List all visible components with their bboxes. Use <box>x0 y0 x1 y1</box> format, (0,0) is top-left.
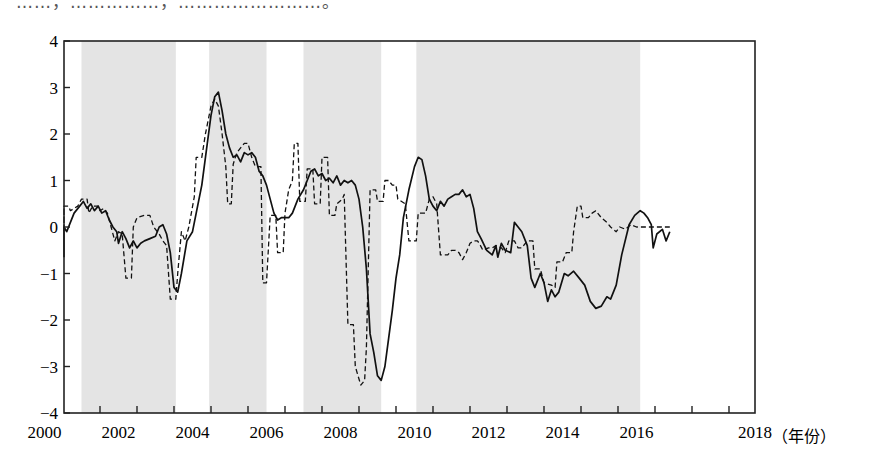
shaded-period-4 <box>416 41 640 413</box>
y-tick-label: 3 <box>50 79 59 98</box>
x-tick-label: 2010 <box>398 423 432 442</box>
y-tick-label: 4 <box>50 32 59 51</box>
y-tick-label: 1 <box>50 172 59 191</box>
shaded-period-2 <box>209 41 266 413</box>
x-tick-label: 2014 <box>546 423 581 442</box>
x-tick-label: 2018 <box>738 423 772 442</box>
x-tick-label: 2008 <box>324 423 358 442</box>
x-axis-unit-label: （年份） <box>772 427 836 446</box>
y-axis: 43210−1−2−3−4 <box>40 32 70 423</box>
shaded-periods <box>82 41 641 413</box>
x-tick-label: 2004 <box>176 423 211 442</box>
x-tick-label: 2012 <box>472 423 506 442</box>
y-tick-label: −3 <box>40 358 58 377</box>
x-tick-label: 2006 <box>250 423 284 442</box>
y-tick-label: −4 <box>40 404 59 423</box>
y-tick-label: −1 <box>40 265 58 284</box>
shaded-period-1 <box>82 41 176 413</box>
x-tick-label: 2002 <box>102 423 136 442</box>
y-tick-label: 0 <box>50 218 59 237</box>
line-chart: 43210−1−2−3−4 20002002200420062008201020… <box>0 0 878 465</box>
y-tick-label: 2 <box>50 125 59 144</box>
x-tick-label: 2000 <box>28 423 62 442</box>
y-tick-label: −2 <box>40 311 58 330</box>
x-tick-label: 2016 <box>620 423 654 442</box>
